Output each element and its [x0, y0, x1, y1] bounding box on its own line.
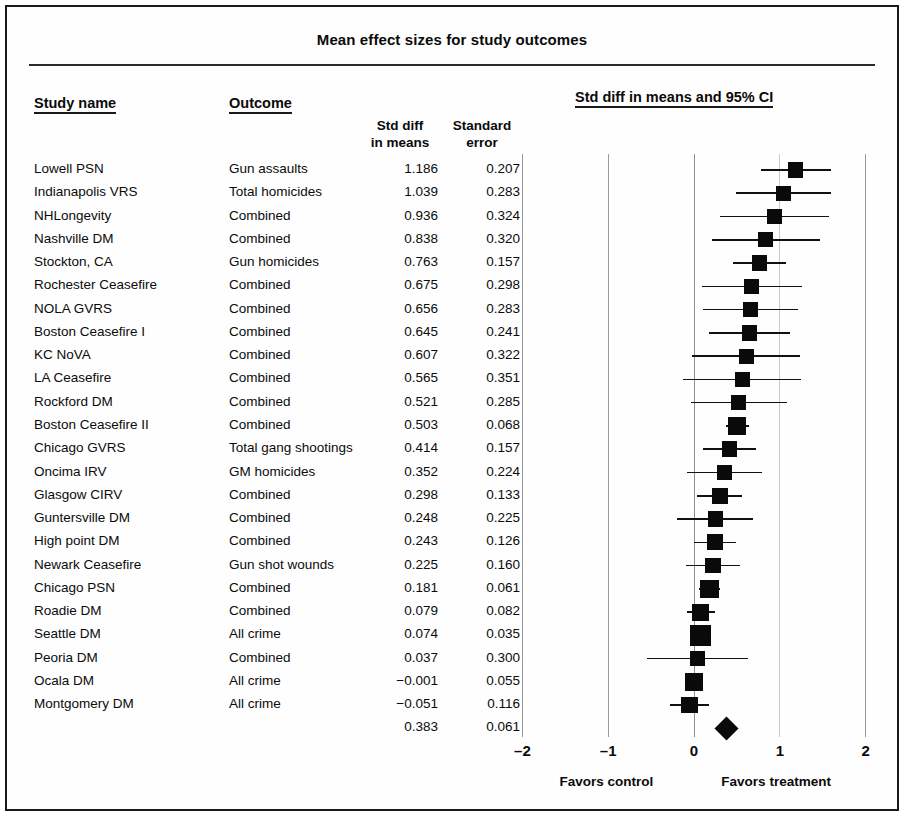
- cell-std-diff: 0.243: [362, 533, 438, 548]
- cell-std-diff: 0.383: [362, 719, 438, 734]
- cell-std-error: 0.157: [444, 254, 520, 269]
- cell-outcome: Total gang shootings: [229, 440, 353, 455]
- cell-outcome: Gun homicides: [229, 254, 319, 269]
- cell-study-name: Boston Ceasefire II: [34, 417, 149, 432]
- cell-study-name: Rochester Ceasefire: [34, 277, 157, 292]
- favors-control-label: Favors control: [559, 774, 653, 789]
- column-header-std-diff: Std diff in means: [362, 117, 438, 151]
- favors-treatment-label: Favors treatment: [721, 774, 831, 789]
- cell-std-diff: 0.763: [362, 254, 438, 269]
- cell-study-name: LA Ceasefire: [34, 370, 111, 385]
- cell-outcome: Combined: [229, 370, 291, 385]
- column-header-outcome: Outcome: [229, 95, 292, 114]
- cell-std-error: 0.300: [444, 650, 520, 665]
- cell-std-error: 0.035: [444, 626, 520, 641]
- table-row: KC NoVACombined0.6070.322: [7, 345, 897, 368]
- cell-study-name: Roadie DM: [34, 603, 102, 618]
- cell-study-name: High point DM: [34, 533, 120, 548]
- table-row: Rockford DMCombined0.5210.285: [7, 392, 897, 415]
- cell-std-diff: 0.037: [362, 650, 438, 665]
- cell-study-name: KC NoVA: [34, 347, 91, 362]
- cell-study-name: Stockton, CA: [34, 254, 113, 269]
- cell-std-diff: 0.079: [362, 603, 438, 618]
- cell-outcome: Combined: [229, 417, 291, 432]
- table-row: Boston Ceasefire IICombined0.5030.068: [7, 415, 897, 438]
- cell-study-name: Peoria DM: [34, 650, 98, 665]
- column-header-std-error: Standard error: [444, 117, 520, 151]
- cell-std-error: 0.351: [444, 370, 520, 385]
- table-row: Chicago PSNCombined0.1810.061: [7, 578, 897, 601]
- table-row: NHLongevityCombined0.9360.324: [7, 206, 897, 229]
- cell-study-name: Guntersville DM: [34, 510, 130, 525]
- table-row: Roadie DMCombined0.0790.082: [7, 601, 897, 624]
- cell-std-diff: 0.565: [362, 370, 438, 385]
- cell-study-name: Chicago PSN: [34, 580, 115, 595]
- axis-tick--1: –1: [588, 742, 628, 759]
- cell-outcome: Combined: [229, 324, 291, 339]
- cell-std-diff: 0.414: [362, 440, 438, 455]
- title-divider: [29, 64, 875, 66]
- cell-std-diff: 0.521: [362, 394, 438, 409]
- cell-std-diff: 0.225: [362, 557, 438, 572]
- column-header-study-name: Study name: [34, 95, 116, 114]
- cell-outcome: Combined: [229, 580, 291, 595]
- cell-std-diff: 0.352: [362, 464, 438, 479]
- table-row: Peoria DMCombined0.0370.300: [7, 648, 897, 671]
- cell-std-diff: 0.074: [362, 626, 438, 641]
- page-title: Mean effect sizes for study outcomes: [7, 31, 897, 48]
- table-row: Boston Ceasefire ICombined0.6450.241: [7, 322, 897, 345]
- cell-std-error: 0.241: [444, 324, 520, 339]
- cell-std-diff: 1.039: [362, 184, 438, 199]
- table-row: Guntersville DMCombined0.2480.225: [7, 508, 897, 531]
- table-row: High point DMCombined0.2430.126: [7, 531, 897, 554]
- cell-std-diff: 0.248: [362, 510, 438, 525]
- table-row: Nashville DMCombined0.8380.320: [7, 229, 897, 252]
- axis-tick--2: –2: [502, 742, 542, 759]
- cell-std-error: 0.068: [444, 417, 520, 432]
- cell-std-diff: 0.675: [362, 277, 438, 292]
- cell-std-error: 0.133: [444, 487, 520, 502]
- cell-std-error: 0.224: [444, 464, 520, 479]
- cell-std-diff: −0.001: [362, 673, 438, 688]
- cell-outcome: Combined: [229, 510, 291, 525]
- cell-std-error: 0.061: [444, 580, 520, 595]
- table-row: Lowell PSNGun assaults1.1860.207: [7, 159, 897, 182]
- cell-outcome: Combined: [229, 487, 291, 502]
- column-header-std-diff-line1: Std diff: [362, 117, 438, 134]
- column-header-std-diff-line2: in means: [362, 134, 438, 151]
- axis-tick-2: 2: [846, 742, 886, 759]
- cell-outcome: All crime: [229, 673, 281, 688]
- cell-std-diff: 0.656: [362, 301, 438, 316]
- column-header-std-error-line2: error: [444, 134, 520, 151]
- table-row: Rochester CeasefireCombined0.6750.298: [7, 275, 897, 298]
- cell-outcome: Combined: [229, 603, 291, 618]
- cell-study-name: Montgomery DM: [34, 696, 134, 711]
- cell-std-error: 0.126: [444, 533, 520, 548]
- cell-std-diff: 1.186: [362, 161, 438, 176]
- cell-outcome: Total homicides: [229, 184, 322, 199]
- cell-outcome: Gun shot wounds: [229, 557, 334, 572]
- table-row: Chicago GVRSTotal gang shootings0.4140.1…: [7, 438, 897, 461]
- cell-std-error: 0.285: [444, 394, 520, 409]
- cell-std-error: 0.324: [444, 208, 520, 223]
- table-row: Ocala DMAll crime−0.0010.055: [7, 671, 897, 694]
- cell-std-diff: 0.936: [362, 208, 438, 223]
- cell-outcome: Combined: [229, 277, 291, 292]
- cell-outcome: Combined: [229, 208, 291, 223]
- table-row: 0.3830.061: [7, 717, 897, 740]
- cell-study-name: Newark Ceasefire: [34, 557, 141, 572]
- cell-study-name: Seattle DM: [34, 626, 101, 641]
- cell-std-diff: 0.298: [362, 487, 438, 502]
- cell-std-error: 0.061: [444, 719, 520, 734]
- cell-std-diff: −0.051: [362, 696, 438, 711]
- cell-std-diff: 0.645: [362, 324, 438, 339]
- cell-std-error: 0.157: [444, 440, 520, 455]
- cell-std-diff: 0.181: [362, 580, 438, 595]
- cell-study-name: Nashville DM: [34, 231, 114, 246]
- cell-study-name: Indianapolis VRS: [34, 184, 138, 199]
- cell-outcome: Combined: [229, 301, 291, 316]
- cell-outcome: GM homicides: [229, 464, 315, 479]
- cell-std-error: 0.082: [444, 603, 520, 618]
- cell-outcome: Combined: [229, 347, 291, 362]
- cell-outcome: Combined: [229, 533, 291, 548]
